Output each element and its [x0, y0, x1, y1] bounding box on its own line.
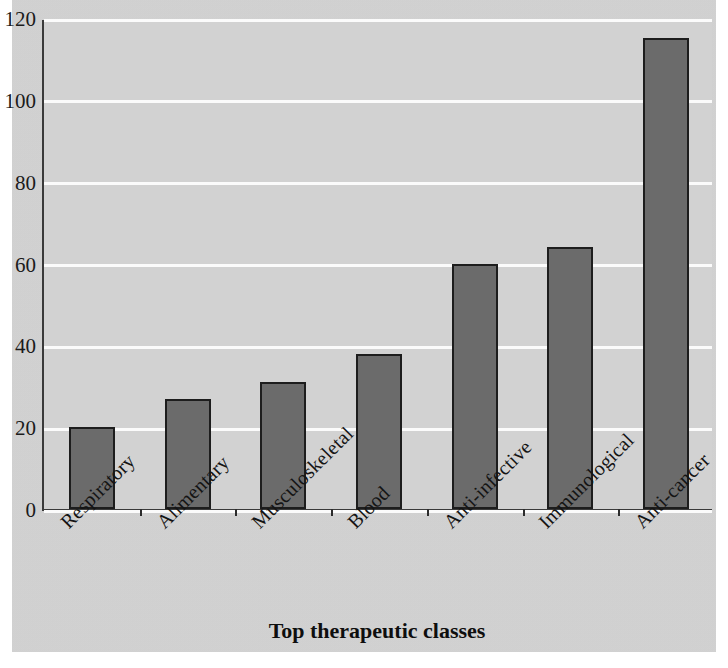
gridline-40 — [44, 346, 712, 349]
y-axis-tick-labels: 020406080100120 — [0, 20, 36, 511]
bar-chart-figure: Number of projects in development 020406… — [0, 0, 728, 668]
y-tick-label: 60 — [15, 255, 36, 276]
x-axis-category-labels: RespiratoryAlimentaryMusculoskeletalBloo… — [42, 511, 712, 616]
x-axis-title: Top therapeutic classes — [42, 618, 712, 644]
y-tick-label: 40 — [15, 336, 36, 357]
y-tick-label: 0 — [26, 500, 37, 521]
bar[interactable] — [643, 38, 689, 509]
y-tick-label: 20 — [15, 418, 36, 439]
gridline-60 — [44, 264, 712, 267]
y-tick-label: 120 — [5, 9, 37, 30]
y-tick-label: 100 — [5, 91, 37, 112]
gridline-100 — [44, 100, 712, 103]
plot-area — [42, 20, 712, 511]
gridline-80 — [44, 182, 712, 185]
y-tick-label: 80 — [15, 173, 36, 194]
gridline-120 — [44, 19, 712, 22]
